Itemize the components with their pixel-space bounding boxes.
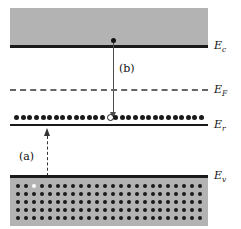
valence-lattice-dot [158,200,162,204]
conduction-band-region [10,8,208,46]
valence-lattice-dot [151,208,155,212]
valence-lattice-dot [111,192,115,196]
valence-lattice-dot [95,216,99,220]
valence-lattice-dot [166,216,170,220]
valence-lattice-dot [71,216,75,220]
valence-lattice-dot [158,216,162,220]
valence-lattice-dot [40,216,44,220]
transition-a-label: (a) [19,150,34,163]
valence-band-lattice [10,178,208,226]
valence-lattice-dot [182,184,186,188]
valence-lattice-dot [190,208,194,212]
trap-state-filled-dot [93,115,98,120]
trap-state-filled-dot [113,115,118,120]
band-diagram-figure: (b) (a) Ec EF Er Ev [0,0,241,229]
trap-state-filled-dot [199,115,204,120]
valence-lattice-dot [56,216,60,220]
trap-state-filled-dot [153,115,158,120]
valence-lattice-dot [111,184,115,188]
trap-state-filled-dot [166,115,171,120]
trap-state-filled-dot [27,115,32,120]
trap-state-filled-dot [120,115,125,120]
valence-lattice-dot [127,216,131,220]
trap-state-filled-dot [173,115,178,120]
conduction-band-edge-line [10,45,208,48]
transition-a-arrow-shaft [47,136,48,176]
valence-lattice-dot [63,216,67,220]
valence-lattice-dot [24,200,28,204]
valence-lattice-dot [56,200,60,204]
valence-lattice-dot [24,184,28,188]
valence-lattice-dot [63,192,67,196]
valence-lattice-dot [190,216,194,220]
valence-lattice-dot [198,192,202,196]
valence-lattice-dot [174,208,178,212]
valence-lattice-dot [79,184,83,188]
valence-lattice-dot [63,208,67,212]
valence-lattice-dot [127,184,131,188]
valence-lattice-dot [119,216,123,220]
valence-lattice-dot [87,208,91,212]
level-label-ef: EF [214,84,227,98]
trap-state-filled-dot [146,115,151,120]
trap-state-filled-dot [186,115,191,120]
fermi-level-line [10,89,208,91]
valence-lattice-dot [48,200,52,204]
valence-lattice-dot [182,200,186,204]
valence-lattice-dot [174,184,178,188]
level-symbol-ef: E [214,83,222,96]
valence-lattice-dot [143,208,147,212]
valence-lattice-dot [190,200,194,204]
valence-lattice-dot [56,208,60,212]
valence-lattice-dot [151,200,155,204]
valence-lattice-dot [95,192,99,196]
valence-lattice-dot [87,184,91,188]
valence-lattice-dot [16,192,20,196]
valence-lattice-dot [32,216,36,220]
trap-state-filled-dot [14,115,19,120]
valence-lattice-dot [135,200,139,204]
valence-lattice-dot [95,208,99,212]
level-label-er: Er [214,119,226,133]
valence-lattice-dot [63,184,67,188]
level-subscript-ev: v [222,175,226,184]
valence-lattice-dot [158,192,162,196]
valence-lattice-dot [127,208,131,212]
valence-lattice-dot [111,216,115,220]
valence-lattice-dot [198,216,202,220]
valence-lattice-dot [32,192,36,196]
trap-state-filled-dot [41,115,46,120]
level-label-ev: Ev [214,170,226,184]
valence-lattice-dot [158,208,162,212]
valence-lattice-dot [166,184,170,188]
valence-lattice-dot [151,184,155,188]
valence-lattice-dot [103,208,107,212]
trap-state-filled-dot [67,115,72,120]
valence-lattice-dot [24,208,28,212]
valence-lattice-dot [143,192,147,196]
valence-lattice-dot [190,192,194,196]
level-subscript-ec: c [222,45,226,54]
trap-state-filled-dot [179,115,184,120]
valence-lattice-dot [103,216,107,220]
valence-lattice-dot [174,192,178,196]
valence-lattice-dot [32,200,36,204]
trap-state-filled-dot [140,115,145,120]
valence-lattice-dot [79,200,83,204]
trap-state-filled-dot [133,115,138,120]
valence-lattice-dot [24,192,28,196]
valence-lattice-dot [40,184,44,188]
valence-lattice-dot [111,200,115,204]
transition-b-label: (b) [119,62,135,75]
valence-lattice-dot [174,216,178,220]
valence-lattice-dot [166,208,170,212]
trap-state-filled-dot [60,115,65,120]
valence-lattice-dot [143,184,147,188]
level-label-ec: Ec [214,40,226,54]
valence-lattice-dot [95,184,99,188]
valence-lattice-dot [182,192,186,196]
valence-lattice-dot [95,200,99,204]
valence-lattice-dot [119,184,123,188]
valence-lattice-dot [119,192,123,196]
valence-lattice-dot [87,200,91,204]
